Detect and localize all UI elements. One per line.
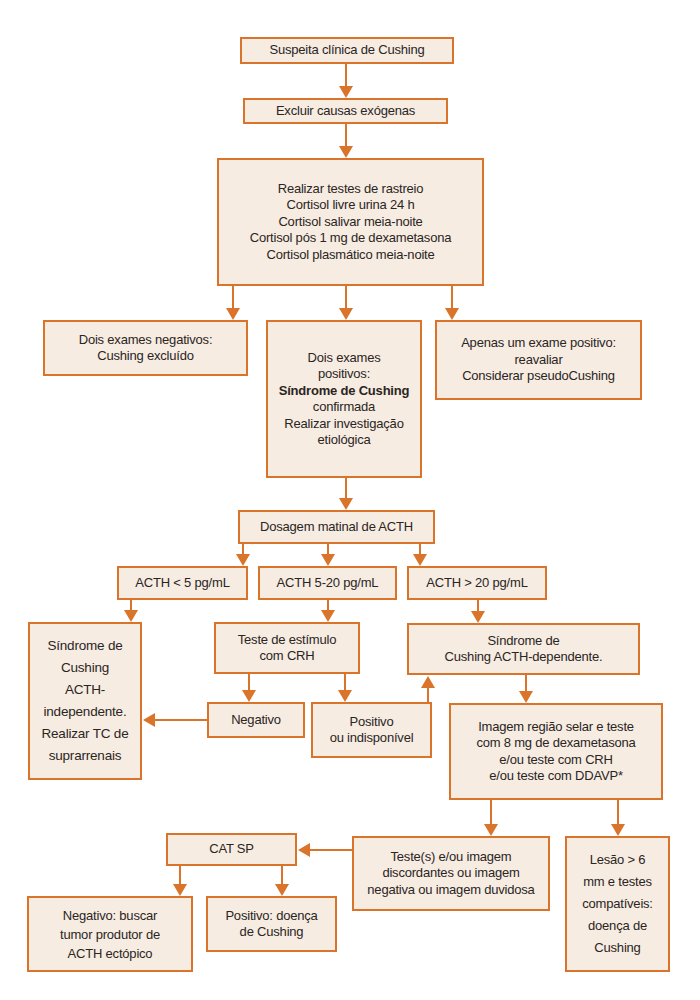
node-text: Positivo — [350, 714, 394, 731]
node-text: Negativo: buscar — [63, 906, 157, 925]
node-text: e/ou teste com CRH — [499, 752, 612, 769]
node-text: tumor produtor de — [60, 925, 160, 944]
node-crh-test: Teste de estímulo com CRH — [214, 622, 360, 674]
node-text: Dois exames — [308, 350, 381, 367]
node-text: Teste(s) e/ou imagem — [391, 849, 512, 866]
node-text: ACTH < 5 pg/mL — [135, 575, 229, 592]
node-text: mm e testes — [583, 871, 652, 893]
node-text: discordantes ou imagem — [382, 865, 519, 882]
node-negative: Negativo — [207, 702, 305, 738]
node-text: ACTH- — [65, 679, 105, 701]
node-lesion-cushing-disease: Lesão > 6 mm e testes compatíveis: doenç… — [565, 836, 670, 972]
node-text: Cushing ACTH-dependente. — [445, 649, 603, 666]
node-screening-tests: Realizar testes de rastreio Cortisol liv… — [217, 158, 484, 286]
node-text: compatíveis: — [582, 893, 653, 915]
node-text-bold: Síndrome de Cushing — [279, 383, 410, 400]
node-text: Cushing — [594, 937, 640, 959]
node-text: com CRH — [260, 648, 315, 665]
node-text: de Cushing — [240, 924, 304, 941]
node-text: Apenas um exame positivo: — [461, 335, 616, 352]
node-text: Lesão > 6 — [590, 849, 646, 871]
node-text: CAT SP — [209, 841, 254, 858]
node-text: Cortisol livre urina 24 h — [287, 197, 415, 214]
node-imaging-tests: Imagem região selar e teste com 8 mg de … — [449, 703, 663, 800]
node-text: Cortisol plasmático meia-noite — [266, 247, 434, 264]
node-text: negativa ou imagem duvidosa — [367, 882, 534, 899]
node-acth-dosage: Dosagem matinal de ACTH — [238, 510, 435, 544]
node-cat-sp: CAT SP — [166, 833, 297, 866]
node-exclude-exogenous: Excluir causas exógenas — [243, 98, 448, 124]
node-text: independente. — [44, 701, 127, 723]
node-text: ACTH > 20 pg/mL — [426, 575, 527, 592]
node-text: Cortisol salivar meia-noite — [278, 214, 422, 231]
node-text: Realizar TC de — [42, 723, 129, 745]
node-acth-dependent: Síndrome de Cushing ACTH-dependente. — [407, 623, 640, 675]
node-acth-high: ACTH > 20 pg/mL — [407, 566, 547, 600]
node-text: Realizar testes de rastreio — [278, 181, 424, 198]
node-text: Excluir causas exógenas — [276, 103, 415, 120]
node-text: suprarrenais — [49, 745, 122, 767]
node-positive-unavailable: Positivo ou indisponível — [311, 702, 432, 758]
node-text: doença de — [588, 915, 647, 937]
node-discordant-results: Teste(s) e/ou imagem discordantes ou ima… — [352, 836, 550, 911]
node-text: Negativo — [231, 712, 281, 729]
node-text: Síndrome de — [487, 633, 559, 650]
node-text: etiológica — [318, 432, 371, 449]
node-text: Cortisol pós 1 mg de dexametasona — [250, 230, 452, 247]
node-text: Suspeita clínica de Cushing — [269, 42, 424, 59]
node-suspicion: Suspeita clínica de Cushing — [240, 37, 454, 64]
node-text: ou indisponível — [330, 730, 414, 747]
node-cat-positive: Positivo: doença de Cushing — [206, 896, 337, 952]
node-text: Síndrome de — [47, 635, 122, 657]
node-text: Dois exames negativos: — [79, 332, 213, 349]
node-acth-low: ACTH < 5 pg/mL — [117, 566, 248, 600]
node-text: ACTH ectópico — [68, 944, 153, 963]
node-cat-negative: Negativo: buscar tumor produtor de ACTH … — [27, 896, 193, 972]
node-text: confirmada — [313, 399, 375, 416]
node-text: Imagem região selar e teste — [478, 719, 634, 736]
node-text: e/ou teste com DDAVP* — [489, 768, 623, 785]
node-acth-mid: ACTH 5-20 pg/mL — [258, 566, 397, 600]
cushing-diagnosis-flowchart: Suspeita clínica de Cushing Excluir caus… — [0, 0, 700, 1000]
node-one-positive: Apenas um exame positivo: reavaliar Cons… — [435, 320, 642, 400]
node-acth-independent: Síndrome de Cushing ACTH- independente. … — [28, 622, 142, 780]
node-two-negative: Dois exames negativos: Cushing excluído — [43, 320, 248, 376]
node-text: positivos: — [318, 366, 370, 383]
node-text: Realizar investigação — [284, 416, 403, 433]
node-text: ACTH 5-20 pg/mL — [277, 575, 379, 592]
node-two-positive: Dois exames positivos: Síndrome de Cushi… — [266, 320, 422, 478]
node-text: Cushing — [61, 657, 109, 679]
node-text: Positivo: doença — [225, 908, 317, 925]
node-text: reavaliar — [514, 352, 562, 369]
node-text: com 8 mg de dexametasona — [476, 735, 635, 752]
node-text: Dosagem matinal de ACTH — [260, 519, 413, 536]
node-text: Considerar pseudoCushing — [462, 368, 615, 385]
node-text: Cushing excluído — [97, 348, 194, 365]
node-text: Teste de estímulo — [238, 632, 337, 649]
